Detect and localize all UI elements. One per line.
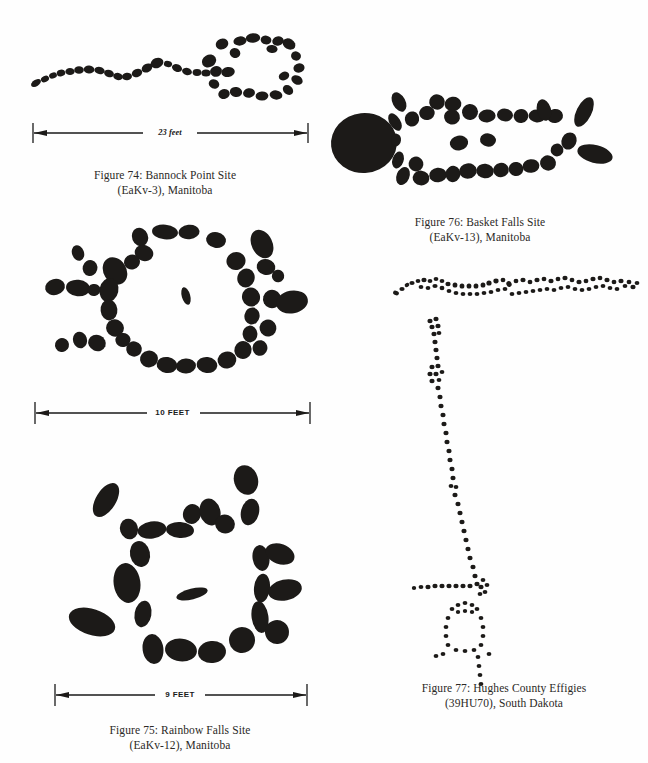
effigy-body-outline-lower (390, 150, 558, 187)
serpent-effigy (392, 276, 639, 296)
effigy-interior-stones (449, 132, 497, 152)
figure-75-upper-scale-label: 10 FEET (25, 408, 320, 417)
figure-77-caption: Figure 77: Hughes County Effigies (39HU7… (360, 681, 648, 711)
figure-74-caption-line2: (EaKv-3), Manitoba (0, 183, 330, 198)
horizontal-arm-effigy (412, 578, 490, 596)
figure-75-caption-line2: (EaKv-12), Manitoba (20, 738, 340, 753)
figure-76-caption: Figure 76: Basket Falls Site (EaKv-13), … (330, 215, 630, 245)
figure-75-drawing (40, 462, 310, 677)
radiating-ray-stones (43, 226, 309, 357)
figure-75-scale-label: 9 FEET (45, 690, 315, 699)
figure-75-artwork (40, 462, 310, 677)
figure-74-caption-line1: Figure 74: Bannock Point Site (0, 168, 330, 183)
figure-75-caption: Figure 75: Rainbow Falls Site (EaKv-12),… (20, 723, 340, 753)
effigy-body-outline-upper (385, 90, 564, 147)
figure-74-caption: Figure 74: Bannock Point Site (EaKv-3), … (0, 168, 330, 198)
rainbow-falls-ring-stones (87, 462, 271, 665)
stone-circle (199, 33, 305, 101)
figure-77-artwork (388, 268, 644, 658)
figure-76-drawing (312, 78, 648, 218)
figure-74-scale-label: 23 feet (25, 127, 315, 137)
circle-ring-stones (97, 223, 262, 374)
figure-77-drawing (388, 268, 644, 658)
figure-77-caption-line1: Figure 77: Hughes County Effigies (360, 681, 648, 696)
figure-76-caption-line2: (EaKv-13), Manitoba (330, 230, 630, 245)
long-line-effigy (427, 317, 479, 586)
figure-75-caption-line1: Figure 75: Rainbow Falls Site (20, 723, 340, 738)
figure-75-upper-artwork (10, 218, 330, 398)
figure-76-caption-line1: Figure 76: Basket Falls Site (330, 215, 630, 230)
human-figure-effigy (434, 601, 492, 658)
figure-77-caption-line2: (39HU70), South Dakota (360, 696, 648, 711)
figure-plate: 23 feet Figure 74: Bannock Point Site (E… (0, 0, 648, 763)
center-stone (179, 286, 192, 306)
rainbow-falls-center-stone (175, 585, 209, 603)
radiating-circle-drawing (10, 218, 330, 398)
figure-76-artwork (312, 78, 648, 218)
